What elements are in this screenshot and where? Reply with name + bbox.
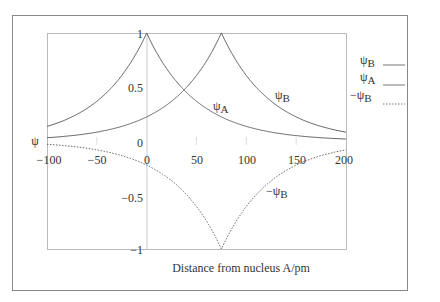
x-axis-label: Distance from nucleus A/pm	[172, 261, 310, 275]
x-tick-50: 50	[191, 153, 203, 167]
label-psi-a: ψA	[213, 99, 229, 115]
x-tick-0: 0	[144, 153, 150, 167]
y-tick-neg1: −1	[130, 243, 143, 257]
x-tick-marks	[97, 137, 296, 145]
legend-item-psi-a: ψA	[360, 70, 405, 86]
y-tick-labels: 1 0.5 0 −0.5 −1	[121, 27, 143, 257]
y-tick-0.5: 0.5	[128, 81, 143, 95]
y-tick-neg0.5: −0.5	[121, 191, 143, 205]
x-tick-150: 150	[288, 153, 306, 167]
x-tick-neg50: −50	[88, 153, 107, 167]
x-tick-neg100: −100	[37, 153, 62, 167]
legend-item-neg-psi-b: −ψB	[350, 88, 405, 104]
y-tick-1: 1	[137, 27, 143, 41]
label-psi-b: ψB	[275, 88, 290, 104]
chart-figure: 1 0.5 0 −0.5 −1 −100 −50 0 50 100 150 20…	[0, 0, 440, 302]
y-tick-0: 0	[137, 136, 143, 150]
legend-label: ψB	[360, 53, 375, 69]
legend-label: ψA	[360, 70, 376, 86]
legend-label: −ψB	[350, 88, 372, 104]
legend-item-psi-b: ψB	[360, 53, 405, 69]
label-neg-psi-b: −ψB	[266, 184, 288, 200]
curve-ψb	[47, 33, 346, 138]
x-tick-200: 200	[335, 153, 353, 167]
x-tick-labels: −100 −50 0 50 100 150 200	[37, 153, 353, 167]
x-tick-100: 100	[238, 153, 256, 167]
y-axis-label: ψ	[31, 134, 39, 148]
curve-ψa	[47, 33, 346, 139]
legend: ψB ψA −ψB	[350, 53, 405, 104]
